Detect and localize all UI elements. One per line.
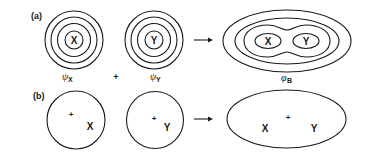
atom-x-contours: X: [45, 11, 103, 69]
sphere-x-symbol: X: [87, 121, 94, 132]
nucleus-x-marker: +: [69, 110, 74, 119]
molecule-center-marker: +: [286, 113, 291, 122]
arrow-b: [194, 117, 213, 122]
arrow-a: [194, 38, 213, 43]
atom-y-symbol: Y: [151, 35, 158, 46]
molecule-x-symbol: X: [262, 123, 269, 134]
bonding-orbital-diagram: (a) X Y X Y ψ X + ψ Y φ B (: [0, 0, 366, 154]
molecule-y-symbol: Y: [311, 123, 318, 134]
nucleus-y-marker: +: [152, 114, 157, 123]
bonding-orbital-contours: X Y: [223, 10, 351, 72]
svg-text:Y: Y: [156, 76, 161, 83]
psi-x-label: ψ X: [62, 71, 73, 83]
bond-y-symbol: Y: [303, 36, 310, 47]
plus-sign: +: [113, 72, 118, 82]
atom-y-sphere: + Y: [127, 92, 184, 149]
svg-text:B: B: [287, 77, 292, 84]
atom-y-contours: Y: [125, 11, 183, 69]
phi-b-label: φ B: [281, 72, 292, 84]
atom-x-sphere: + X: [47, 91, 105, 149]
bond-x-symbol: X: [265, 36, 272, 47]
psi-y-label: ψ Y: [150, 71, 161, 83]
molecule-ellipse: + X Y: [227, 90, 346, 148]
panel-b-label: (b): [33, 91, 45, 101]
panel-a-label: (a): [31, 11, 42, 21]
svg-text:X: X: [68, 76, 73, 83]
atom-x-symbol: X: [71, 35, 78, 46]
sphere-y-symbol: Y: [164, 122, 171, 133]
